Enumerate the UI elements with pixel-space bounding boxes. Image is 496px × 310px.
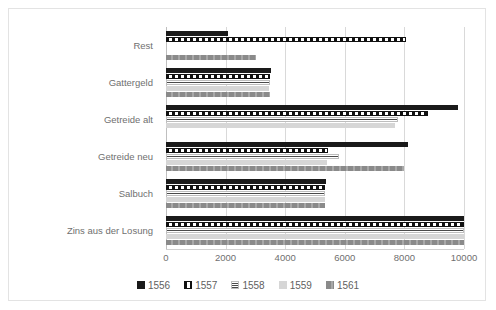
bar (166, 105, 458, 110)
bar (166, 148, 328, 153)
legend-item-1556[interactable]: 1556 (137, 279, 170, 291)
category-label: Zins aus der Losung (67, 225, 153, 236)
legend-item-1557[interactable]: 1557 (184, 279, 217, 291)
bar (166, 203, 325, 208)
bar-group (166, 31, 464, 61)
bar (166, 160, 327, 165)
bar (166, 86, 269, 91)
category-label: Salbuch (119, 188, 153, 199)
bar-group (166, 142, 464, 172)
gridline (464, 27, 465, 249)
bar (166, 154, 339, 159)
bar (166, 68, 271, 73)
bar (166, 31, 228, 36)
bar-group (166, 216, 464, 246)
bar (166, 123, 395, 128)
value-tick-label: 6000 (325, 252, 365, 263)
bar (166, 234, 464, 239)
bar-group (166, 68, 464, 98)
bar (166, 117, 398, 122)
legend-item-1559[interactable]: 1559 (279, 279, 312, 291)
legend-label: 1558 (242, 280, 264, 291)
category-label: Gattergeld (109, 77, 153, 88)
bar (166, 111, 428, 116)
legend-swatch-icon (231, 281, 239, 289)
bar (166, 228, 464, 233)
category-axis-line (166, 249, 464, 250)
bar (166, 55, 256, 60)
legend-swatch-icon (279, 281, 287, 289)
legend-swatch-icon (137, 281, 145, 289)
legend-item-1561[interactable]: 1561 (326, 279, 359, 291)
bar (166, 92, 270, 97)
legend-label: 1559 (290, 280, 312, 291)
category-label: Getreide alt (104, 114, 153, 125)
category-label: Getreide neu (98, 151, 153, 162)
bar (166, 240, 464, 245)
category-label: Rest (133, 40, 153, 51)
value-axis-labels: 0200040006000800010000 (166, 252, 464, 268)
value-tick-label: 8000 (384, 252, 424, 263)
category-axis-labels: RestGattergeldGetreide altGetreide neuSa… (9, 27, 161, 249)
value-tick-label: 4000 (265, 252, 305, 263)
value-tick-label: 10000 (444, 252, 484, 263)
bar-group (166, 105, 464, 135)
bar (166, 191, 325, 196)
bar (166, 179, 326, 184)
bar (166, 74, 270, 79)
plot-area (166, 27, 464, 249)
bar-group (166, 179, 464, 209)
legend-swatch-icon (184, 281, 192, 289)
legend-item-1558[interactable]: 1558 (231, 279, 264, 291)
chart-frame: RestGattergeldGetreide altGetreide neuSa… (8, 8, 486, 301)
bar (166, 80, 270, 85)
legend-label: 1561 (337, 280, 359, 291)
bar (166, 197, 325, 202)
bar (166, 222, 464, 227)
bar (166, 166, 404, 171)
chart-legend: 15561557155815591561 (9, 275, 487, 293)
bar (166, 185, 325, 190)
bar (166, 37, 406, 42)
legend-label: 1556 (148, 280, 170, 291)
bar (166, 216, 464, 221)
bar (166, 142, 408, 147)
value-tick-label: 0 (146, 252, 186, 263)
legend-swatch-icon (326, 281, 334, 289)
value-tick-label: 2000 (206, 252, 246, 263)
legend-label: 1557 (195, 280, 217, 291)
